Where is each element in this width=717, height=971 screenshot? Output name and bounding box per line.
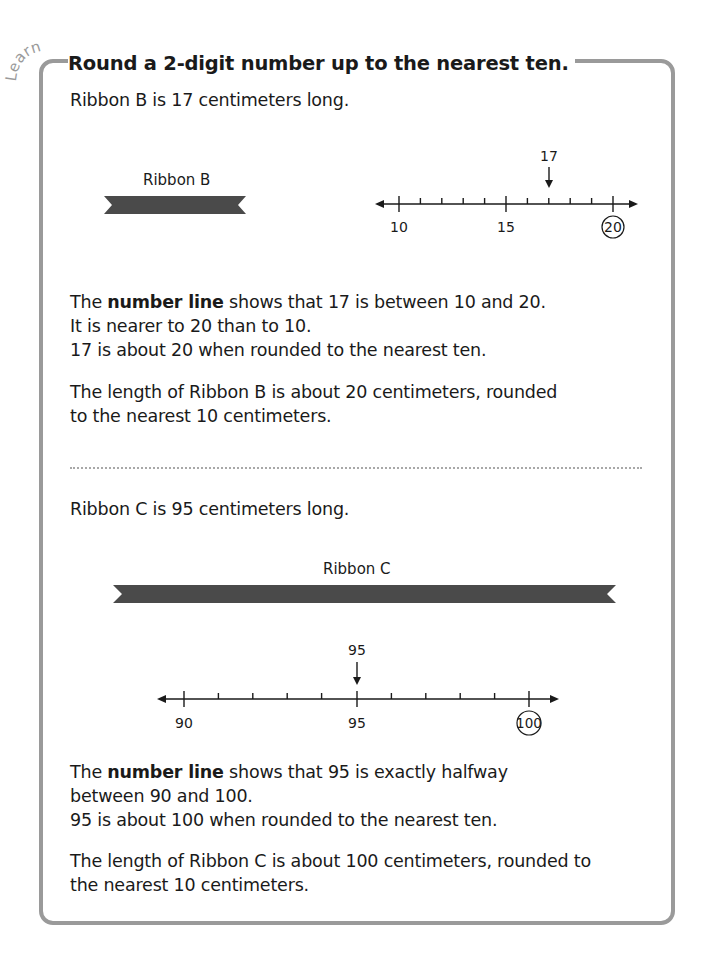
tick-label: 10 [390, 219, 408, 235]
number-line-c: 95 90 95 100 [145, 635, 575, 740]
tick-label-circled: 20 [604, 219, 622, 235]
number-line-b: 17 10 15 20 [365, 140, 655, 240]
down-arrow-icon [353, 677, 361, 685]
ribbon-b-conclusion: The length of Ribbon B is about 20 centi… [70, 380, 557, 428]
ribbon-c-label: Ribbon C [323, 560, 391, 578]
down-arrow-icon [545, 180, 553, 188]
number-line-c-marker-label: 95 [348, 642, 366, 658]
tick-label: 95 [348, 715, 366, 731]
ribbon-b-intro: Ribbon B is 17 centimeters long. [70, 88, 349, 112]
ribbon-c-intro: Ribbon C is 95 centimeters long. [70, 497, 349, 521]
left-arrow-icon [375, 200, 384, 208]
left-arrow-icon [157, 695, 166, 703]
svg-text:Learn: Learn [2, 38, 43, 82]
ribbon-b-shape [104, 196, 246, 214]
bold-term: number line [107, 292, 223, 312]
learn-section-tag: Learn [2, 38, 62, 88]
right-arrow-icon [550, 695, 559, 703]
section-title: Round a 2-digit number up to the nearest… [68, 52, 575, 75]
learn-tag-text: Learn [2, 38, 43, 82]
bold-term: number line [107, 762, 223, 782]
right-arrow-icon [629, 200, 638, 208]
tick-label: 15 [497, 219, 515, 235]
ribbon-c-explanation: The number line shows that 95 is exactly… [70, 760, 508, 832]
ribbon-b-explanation: The number line shows that 17 is between… [70, 290, 546, 362]
tick-label: 90 [175, 715, 193, 731]
section-divider [70, 467, 642, 469]
ribbon-c-shape [113, 585, 616, 603]
ribbon-b-label: Ribbon B [143, 171, 210, 189]
number-line-b-marker-label: 17 [540, 148, 558, 164]
ribbon-c-conclusion: The length of Ribbon C is about 100 cent… [70, 849, 591, 897]
tick-label-circled: 100 [516, 715, 542, 731]
